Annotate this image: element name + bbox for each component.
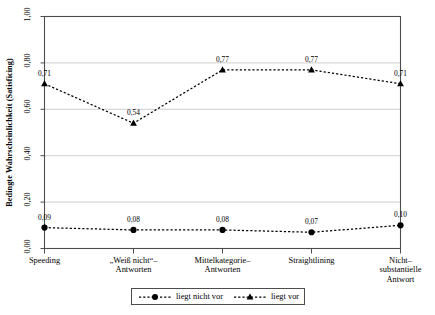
- series-line-1: [45, 70, 401, 123]
- x-tick-label-line: Antworten: [168, 265, 278, 275]
- legend-circle-marker-icon: [138, 292, 172, 302]
- data-point-label: 0,71: [394, 69, 407, 78]
- y-tick-label-text: 0,40: [22, 146, 31, 160]
- y-tick-label: 1,00: [14, 10, 40, 19]
- x-tick-label: Nicht–substantielleAntwort: [346, 256, 435, 285]
- legend-triangle-marker-icon: [233, 292, 267, 302]
- y-tick-label-text: 1,00: [22, 7, 31, 21]
- y-tick-label-text: 0,20: [22, 193, 31, 207]
- legend-label: liegt nicht vor: [176, 292, 223, 301]
- data-point-label: 0,54: [127, 108, 140, 117]
- x-tick-label-line: Nicht–: [346, 256, 435, 266]
- y-tick-label-text: 0,60: [22, 100, 31, 114]
- data-marker-triangle: [130, 120, 137, 126]
- plot-frame: [45, 17, 401, 249]
- x-tick-label-line: substantielle: [346, 265, 435, 275]
- legend: liegt nicht vorliegt vor: [131, 288, 305, 305]
- legend-entry-0: liegt nicht vor: [138, 289, 223, 304]
- chart-container: Bedingte Wahrscheinlichkeit (Satisficing…: [0, 0, 435, 315]
- data-point-label: 0,77: [305, 55, 318, 64]
- data-point-label: 0,71: [38, 69, 51, 78]
- data-point-label: 0,08: [216, 215, 229, 224]
- data-marker-triangle: [397, 80, 404, 86]
- data-marker-circle: [308, 229, 314, 235]
- data-marker-circle: [397, 222, 403, 228]
- data-marker-triangle: [41, 80, 48, 86]
- y-tick-label: 0,60: [14, 102, 40, 111]
- data-marker-circle: [41, 225, 47, 231]
- data-point-label: 0,09: [38, 213, 51, 222]
- x-tick-label-line: Antwort: [346, 275, 435, 285]
- y-tick-label: 0,00: [14, 242, 40, 251]
- data-point-label: 0,08: [127, 215, 140, 224]
- data-point-label: 0,10: [394, 210, 407, 219]
- y-tick-label: 0,80: [14, 56, 40, 65]
- data-marker-circle: [219, 227, 225, 233]
- legend-entry-1: liegt vor: [233, 289, 299, 304]
- data-point-label: 0,77: [216, 55, 229, 64]
- data-point-label: 0,07: [305, 217, 318, 226]
- y-tick-label: 0,20: [14, 195, 40, 204]
- y-tick-label-text: 0,00: [22, 239, 31, 253]
- legend-label: liegt vor: [271, 292, 299, 301]
- data-marker-circle: [130, 227, 136, 233]
- y-tick-label-text: 0,80: [22, 53, 31, 67]
- y-tick-label: 0,40: [14, 149, 40, 158]
